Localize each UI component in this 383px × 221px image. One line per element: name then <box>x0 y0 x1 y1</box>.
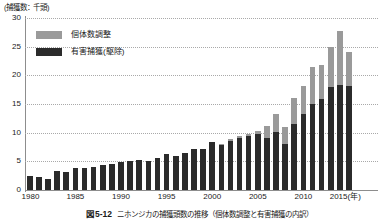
bar-segment-population-adjustment-2010 <box>301 86 307 114</box>
legend-label-pest-capture: 有害捕獲(駆除) <box>71 48 124 56</box>
bar-1987[interactable] <box>91 167 97 190</box>
bar-1990[interactable] <box>118 162 124 190</box>
bar-segment-pest-capture-1990 <box>118 162 124 190</box>
bar-segment-pest-capture-1981 <box>36 177 42 190</box>
bar-segment-pest-capture-1980 <box>27 176 33 190</box>
bar-segment-pest-capture-1989 <box>109 164 115 190</box>
bar-segment-pest-capture-1988 <box>100 165 106 190</box>
x-tick-label-2000: 2000 <box>203 192 221 201</box>
x-tick-label-1995: 1995 <box>158 192 176 201</box>
bar-segment-population-adjustment-2001 <box>219 144 225 145</box>
bar-segment-population-adjustment-2011 <box>310 67 316 104</box>
bar-1992[interactable] <box>136 160 142 190</box>
bar-1993[interactable] <box>146 161 152 190</box>
bar-segment-pest-capture-1984 <box>63 172 69 190</box>
legend-item-pest-capture: 有害捕獲(駆除) <box>36 46 156 58</box>
bar-segment-pest-capture-1992 <box>136 160 142 190</box>
bar-segment-population-adjustment-2004 <box>246 134 252 136</box>
bar-segment-pest-capture-2011 <box>310 104 316 190</box>
bar-segment-pest-capture-2003 <box>237 138 243 190</box>
legend-label-population-adjustment: 個体数調整 <box>71 31 111 39</box>
bar-2015[interactable] <box>346 52 352 190</box>
bar-1980[interactable] <box>27 176 33 190</box>
x-axis-line <box>25 190 378 191</box>
y-tick-label-20: 20 <box>0 71 21 79</box>
bar-2012[interactable] <box>319 65 325 190</box>
bar-segment-population-adjustment-2014 <box>337 31 343 85</box>
bar-2014[interactable] <box>337 31 343 190</box>
bar-1985[interactable] <box>73 168 79 190</box>
bar-1986[interactable] <box>82 168 88 190</box>
bar-segment-pest-capture-1996 <box>173 156 179 190</box>
bar-1996[interactable] <box>173 156 179 190</box>
bar-1991[interactable] <box>127 161 133 190</box>
legend-swatch-dark-icon <box>36 48 62 56</box>
x-axis-ticks: 19801985199019952000200520102015(年) <box>0 192 383 206</box>
y-tick-label-10: 10 <box>0 129 21 137</box>
x-tick-label-2010: 2010 <box>294 192 312 201</box>
bar-segment-pest-capture-2009 <box>291 124 297 190</box>
bar-segment-population-adjustment-2006 <box>264 126 270 137</box>
bar-segment-pest-capture-2000 <box>209 142 215 190</box>
bar-segment-population-adjustment-2007 <box>273 114 279 131</box>
bar-2003[interactable] <box>237 136 243 190</box>
bar-1994[interactable] <box>155 158 161 190</box>
bar-2013[interactable] <box>328 47 334 190</box>
bar-segment-population-adjustment-2002 <box>228 139 234 141</box>
bar-segment-pest-capture-2008 <box>282 144 288 190</box>
x-tick-label-1990: 1990 <box>112 192 130 201</box>
bar-1983[interactable] <box>54 171 60 190</box>
bar-1982[interactable] <box>45 179 51 190</box>
bar-1981[interactable] <box>36 177 42 190</box>
bar-2008[interactable] <box>282 127 288 190</box>
bar-1989[interactable] <box>109 164 115 190</box>
bar-segment-pest-capture-1987 <box>91 167 97 190</box>
bar-segment-population-adjustment-2003 <box>237 136 243 139</box>
bar-2000[interactable] <box>209 142 215 190</box>
figure-caption: 図5-12ニホンジカの捕獲頭数の推移（個体数調整と有害捕獲の内訳） <box>86 210 313 221</box>
y-axis-ticks: 051015202530 <box>0 0 25 221</box>
bar-1995[interactable] <box>164 154 170 190</box>
x-tick-label-2005: 2005 <box>249 192 267 201</box>
x-tick-label-1980: 1980 <box>22 192 40 201</box>
bar-2006[interactable] <box>264 126 270 190</box>
bar-2011[interactable] <box>310 67 316 190</box>
bar-segment-pest-capture-2002 <box>228 141 234 190</box>
bar-segment-population-adjustment-2008 <box>282 127 288 144</box>
bar-segment-pest-capture-1991 <box>127 161 133 190</box>
figure-number: 図5-12 <box>86 210 112 219</box>
bar-segment-pest-capture-1994 <box>155 158 161 190</box>
bar-segment-pest-capture-1993 <box>146 161 152 190</box>
bar-segment-pest-capture-2007 <box>273 132 279 190</box>
bar-1988[interactable] <box>100 165 106 190</box>
x-tick-label-1985: 1985 <box>66 192 84 201</box>
bar-segment-population-adjustment-2012 <box>319 65 325 99</box>
bar-segment-pest-capture-1998 <box>191 149 197 190</box>
bar-segment-pest-capture-2015 <box>346 86 352 190</box>
bar-1984[interactable] <box>63 172 69 190</box>
bar-2002[interactable] <box>228 139 234 190</box>
bar-segment-population-adjustment-2013 <box>328 47 334 87</box>
bar-segment-population-adjustment-2015 <box>346 52 352 85</box>
bar-segment-pest-capture-1995 <box>164 154 170 190</box>
y-tick-label-30: 30 <box>0 14 21 22</box>
bar-segment-pest-capture-2010 <box>301 114 307 190</box>
chart-container: (捕獲数：千頭) 051015202530 198019851990199520… <box>0 0 383 221</box>
bar-1998[interactable] <box>191 149 197 190</box>
bar-segment-pest-capture-1999 <box>200 149 206 190</box>
bar-1997[interactable] <box>182 153 188 190</box>
bar-segment-population-adjustment-2005 <box>255 131 261 134</box>
bar-segment-pest-capture-2004 <box>246 136 252 190</box>
bar-2010[interactable] <box>301 86 307 190</box>
y-tick-label-5: 5 <box>0 157 21 165</box>
bar-segment-pest-capture-2014 <box>337 85 343 190</box>
bar-2005[interactable] <box>255 131 261 190</box>
bar-2001[interactable] <box>219 144 225 190</box>
bar-2009[interactable] <box>291 98 297 190</box>
bar-segment-pest-capture-2006 <box>264 138 270 190</box>
bar-1999[interactable] <box>200 149 206 190</box>
legend-swatch-gray-icon <box>36 31 62 39</box>
bar-segment-pest-capture-2001 <box>219 145 225 190</box>
bar-2007[interactable] <box>273 114 279 190</box>
bar-2004[interactable] <box>246 134 252 190</box>
